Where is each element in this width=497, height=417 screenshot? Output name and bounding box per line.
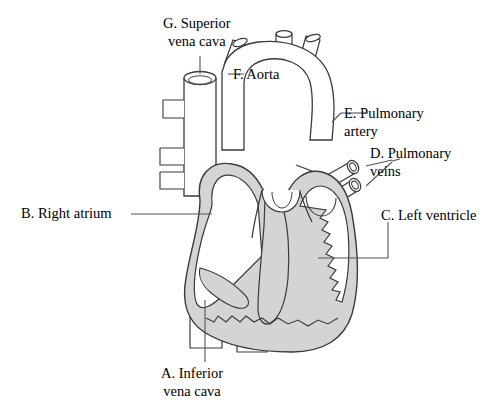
label-svc-line2: vena cava [163, 33, 231, 51]
label-pulmonary-veins: D. Pulmonary veins [370, 145, 451, 180]
label-pv-line2: veins [370, 163, 451, 181]
label-right-atrium: B. Right atrium [21, 205, 112, 223]
label-aorta: F. Aorta [233, 66, 279, 84]
label-lv-line1: C. Left ventricle [381, 207, 476, 223]
label-ivc-line2: vena cava [161, 383, 223, 401]
label-pa-line1: E. Pulmonary [344, 105, 424, 121]
label-aorta-line1: F. Aorta [233, 66, 279, 82]
label-left-ventricle: C. Left ventricle [381, 207, 476, 225]
label-pv-line1: D. Pulmonary [370, 145, 451, 161]
label-inferior-vena-cava: A. Inferior vena cava [161, 365, 223, 400]
label-ra-line1: B. Right atrium [21, 205, 112, 221]
svc-branch-stubs [160, 100, 184, 189]
label-ivc-line1: A. Inferior [161, 365, 223, 381]
aorta-vessel [222, 41, 334, 150]
label-svc-line1: G. Superior [163, 15, 231, 31]
heart-diagram-page: G. Superior vena cava F. Aorta E. Pulmon… [0, 0, 497, 417]
label-superior-vena-cava: G. Superior vena cava [163, 15, 231, 50]
label-pa-line2: artery [344, 123, 424, 141]
label-pulmonary-artery: E. Pulmonary artery [344, 105, 424, 140]
